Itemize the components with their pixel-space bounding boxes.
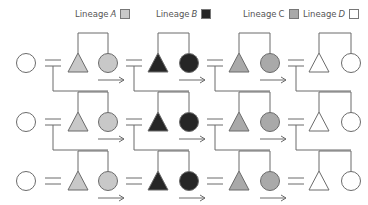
male-lineage-a-icon bbox=[68, 53, 88, 72]
female-lineage-a-icon bbox=[99, 54, 118, 73]
male-lineage-c-icon bbox=[229, 53, 249, 72]
male-lineage-a-icon bbox=[68, 112, 88, 131]
female-outsider-icon bbox=[17, 172, 36, 191]
female-lineage-a-icon bbox=[99, 172, 118, 191]
male-lineage-d-icon bbox=[309, 53, 329, 72]
female-lineage-c-icon bbox=[261, 113, 280, 132]
male-lineage-a-icon bbox=[68, 171, 88, 190]
kinship-diagram bbox=[0, 0, 368, 205]
female-lineage-b-icon bbox=[180, 113, 199, 132]
male-lineage-b-icon bbox=[148, 171, 168, 190]
male-lineage-c-icon bbox=[229, 112, 249, 131]
female-lineage-d-icon bbox=[342, 172, 361, 191]
female-lineage-c-icon bbox=[261, 54, 280, 73]
male-lineage-d-icon bbox=[309, 171, 329, 190]
female-outsider-icon bbox=[17, 113, 36, 132]
male-lineage-b-icon bbox=[148, 53, 168, 72]
female-lineage-d-icon bbox=[342, 113, 361, 132]
female-lineage-d-icon bbox=[342, 54, 361, 73]
female-lineage-a-icon bbox=[99, 113, 118, 132]
female-outsider-icon bbox=[17, 54, 36, 73]
female-lineage-b-icon bbox=[180, 54, 199, 73]
male-lineage-b-icon bbox=[148, 112, 168, 131]
male-lineage-c-icon bbox=[229, 171, 249, 190]
male-lineage-d-icon bbox=[309, 112, 329, 131]
female-lineage-c-icon bbox=[261, 172, 280, 191]
female-lineage-b-icon bbox=[180, 172, 199, 191]
